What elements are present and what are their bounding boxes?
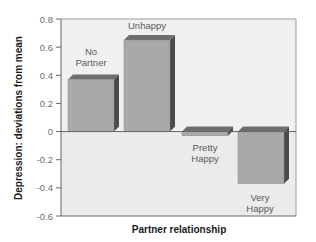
category-label: Happy [246,203,274,214]
bar-front [124,40,170,131]
category-label: Pretty [193,142,218,153]
bar-side [284,127,289,184]
bar-top [238,127,289,132]
bar-top [182,127,233,132]
bar-side [170,35,175,131]
category-label: No [85,46,97,57]
y-tick-label: -0.2 [37,154,53,165]
y-tick-label: 0 [48,126,53,137]
bar-chart: 0.80.60.40.20-0.2-0.4-0.6 NoPartnerUnhap… [0,0,316,242]
bar-very-happy [238,127,289,184]
category-label: Partner [75,57,106,68]
y-tick-label: 0.8 [40,14,53,25]
bar-front [68,80,114,132]
category-label: Unhappy [128,20,166,31]
y-tick-label: -0.6 [37,211,53,222]
category-label: Happy [191,153,219,164]
category-label: Very [250,192,269,203]
bar-no-partner [68,75,119,132]
y-tick-label: -0.4 [37,182,53,193]
y-axis-title: Depression: deviations from mean [13,36,24,200]
y-tick-label: 0.4 [40,70,53,81]
bar-unhappy [124,35,175,131]
bar-top [124,35,175,40]
y-tick-label: 0.2 [40,98,53,109]
bar-front [182,132,228,136]
x-axis-title: Partner relationship [132,224,226,235]
bar-front [238,132,284,184]
y-axis-ticks: 0.80.60.40.20-0.2-0.4-0.6 [37,14,61,222]
bar-side [114,75,119,132]
y-tick-label: 0.6 [40,42,53,53]
bar-top [68,75,119,80]
